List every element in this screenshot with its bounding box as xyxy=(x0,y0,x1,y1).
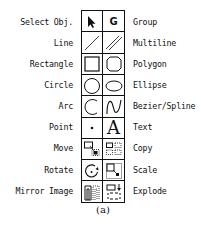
tool-scale-button[interactable] xyxy=(103,160,124,181)
label-arc: Arc xyxy=(59,101,73,111)
label-multiline: Multiline xyxy=(133,38,176,48)
multiline-icon xyxy=(105,34,123,52)
line-icon xyxy=(83,34,101,52)
scale-icon xyxy=(105,162,123,180)
palette-row-mirror-explode xyxy=(82,181,124,202)
tool-text-button[interactable]: A xyxy=(103,118,124,139)
group-g-icon: G xyxy=(109,16,117,27)
arrow-pointer-icon xyxy=(86,15,98,29)
rectangle-icon xyxy=(83,55,101,73)
palette-row-arc-bezier xyxy=(82,96,124,117)
label-move: Move xyxy=(54,143,73,153)
tool-line-button[interactable] xyxy=(82,32,103,53)
tool-circle-button[interactable] xyxy=(82,75,103,96)
label-polygon: Polygon xyxy=(133,59,167,69)
tool-ellipse-button[interactable] xyxy=(103,75,124,96)
copy-icon xyxy=(105,140,123,158)
label-rectangle: Rectangle xyxy=(30,59,73,69)
tool-point-button[interactable] xyxy=(82,118,103,139)
tool-palette-figure: Select Obj. Line Rectangle Circle Arc Po… xyxy=(0,0,201,226)
tool-move-button[interactable] xyxy=(82,139,103,160)
tool-polygon-button[interactable] xyxy=(103,54,124,75)
tool-arc-button[interactable] xyxy=(82,96,103,117)
tool-rectangle-button[interactable] xyxy=(82,54,103,75)
tool-rotate-button[interactable] xyxy=(82,160,103,181)
palette-row-move-copy xyxy=(82,139,124,160)
label-scale: Scale xyxy=(133,165,157,175)
label-explode: Explode xyxy=(133,186,167,196)
label-select-obj: Select Obj. xyxy=(20,17,73,27)
mirror-image-icon xyxy=(83,183,101,201)
label-ellipse: Ellipse xyxy=(133,80,167,90)
bezier-spline-icon xyxy=(105,98,123,116)
palette-row-circle-ellipse xyxy=(82,75,124,96)
tool-select-obj-button[interactable] xyxy=(82,11,103,32)
point-icon xyxy=(83,119,101,137)
tool-group-button[interactable]: G xyxy=(103,11,124,32)
palette-row-rotate-scale xyxy=(82,160,124,181)
explode-icon xyxy=(105,183,123,201)
tool-bezier-spline-button[interactable] xyxy=(103,96,124,117)
circle-icon xyxy=(83,77,101,95)
tool-copy-button[interactable] xyxy=(103,139,124,160)
tool-multiline-button[interactable] xyxy=(103,32,124,53)
polygon-icon xyxy=(105,55,123,73)
palette-row-point-text: A xyxy=(82,118,124,139)
palette-row-line-multiline xyxy=(82,32,124,53)
label-copy: Copy xyxy=(133,143,152,153)
figure-caption: (a) xyxy=(81,204,125,216)
palette-row-rectangle-polygon xyxy=(82,54,124,75)
label-rotate: Rotate xyxy=(44,165,73,175)
label-mirror-image: Mirror Image xyxy=(15,186,73,196)
ellipse-icon xyxy=(105,77,123,95)
arc-icon xyxy=(83,98,101,116)
move-icon xyxy=(83,140,101,158)
tool-mirror-image-button[interactable] xyxy=(82,181,103,202)
rotate-icon xyxy=(83,162,101,180)
tool-explode-button[interactable] xyxy=(103,181,124,202)
label-line: Line xyxy=(54,38,73,48)
label-point: Point xyxy=(49,122,73,132)
label-group: Group xyxy=(133,17,157,27)
palette-row-select-group: G xyxy=(82,11,124,32)
label-bezier-spline: Bezier/Spline xyxy=(133,101,195,111)
label-circle: Circle xyxy=(44,80,73,90)
text-a-icon: A xyxy=(107,119,120,137)
tool-palette-grid: G xyxy=(81,10,125,203)
label-text: Text xyxy=(133,122,152,132)
